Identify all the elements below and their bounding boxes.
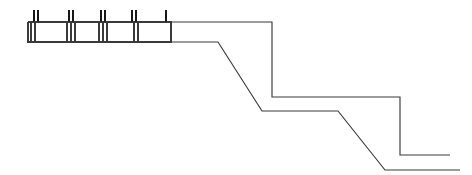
line-drawing-svg <box>0 0 472 175</box>
segmented-bar-group <box>28 22 171 42</box>
drawing-canvas <box>0 0 472 175</box>
